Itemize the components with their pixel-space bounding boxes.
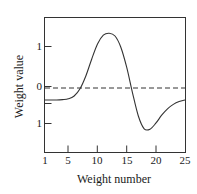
x-axis-title: Weight number	[40, 172, 188, 187]
x-tick-label-1: 1	[35, 155, 55, 166]
y-tick-label-1: 1	[28, 41, 42, 52]
weight-value-curve	[45, 33, 185, 130]
chart-figure: 1 0 1 1 5 10 15 20 25 Weight number Weig…	[0, 0, 197, 194]
y-axis-title: Weight value	[12, 37, 27, 137]
plot-frame	[45, 18, 186, 153]
x-tick-label-20: 20	[146, 155, 166, 166]
x-axis-ticks	[45, 146, 186, 153]
x-tick-label-25: 25	[175, 155, 195, 166]
y-tick-label-0: 0	[28, 81, 42, 92]
x-tick-label-10: 10	[87, 155, 107, 166]
x-tick-label-5: 5	[58, 155, 78, 166]
y-tick-label-neg1: 1	[28, 118, 42, 129]
y-axis-ticks	[45, 47, 52, 124]
x-tick-label-15: 15	[117, 155, 137, 166]
